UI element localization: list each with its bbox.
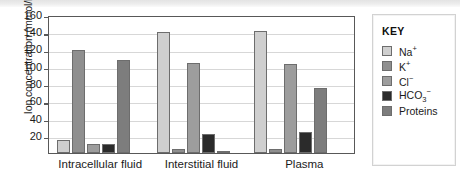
legend-row: Na+ [382, 43, 454, 58]
legend-row: HCO3− [382, 88, 454, 103]
x-label-plasma: Plasma [285, 158, 323, 170]
x-axis-labels: Intracellular fluid Interstitial fluid P… [48, 158, 355, 178]
legend-swatch-icon [382, 91, 392, 101]
legend-label: HCO3− [399, 87, 431, 104]
bar-groups [49, 17, 354, 153]
bar [187, 63, 200, 153]
legend-row: Proteins [382, 103, 454, 118]
y-tick-160: 160 [8, 10, 42, 21]
bar-chart: Ion concentration (mmol/L) 160 140 120 1… [0, 0, 368, 184]
legend-label: Na+ [399, 44, 417, 58]
legend-label: Cl− [399, 74, 413, 88]
figure-root: Ion concentration (mmol/L) 160 140 120 1… [0, 0, 460, 184]
bar [87, 144, 100, 153]
plot-area [48, 16, 355, 154]
bar [117, 60, 130, 153]
legend-row: Cl− [382, 73, 454, 88]
bar [269, 149, 282, 153]
bar [217, 151, 230, 153]
bar [157, 32, 170, 153]
bar [72, 50, 85, 154]
legend-swatch-icon [382, 76, 392, 86]
y-tick-80: 80 [8, 79, 42, 90]
bar [299, 132, 312, 153]
bar [102, 144, 115, 153]
bar [314, 88, 327, 153]
legend-title: KEY [382, 25, 405, 37]
y-tick-100: 100 [8, 62, 42, 73]
bar-group [254, 17, 327, 153]
legend-row: K+ [382, 58, 454, 73]
legend-swatch-icon [382, 61, 392, 71]
bar [284, 64, 297, 153]
legend-label: Proteins [399, 105, 438, 117]
bar-group [157, 17, 230, 153]
y-tick-60: 60 [8, 96, 42, 107]
x-label-intracellular: Intracellular fluid [58, 158, 142, 170]
legend-label: K+ [399, 59, 410, 73]
bar [172, 149, 185, 153]
bar [57, 140, 70, 153]
bar-group [57, 17, 130, 153]
legend-swatch-icon [382, 106, 392, 116]
bar [254, 31, 267, 153]
legend-swatch-icon [382, 46, 392, 56]
legend-box: KEY Na+K+Cl−HCO3−Proteins [372, 14, 456, 166]
y-tick-120: 120 [8, 44, 42, 55]
y-tick-20: 20 [8, 131, 42, 142]
y-axis-tick-labels: 160 140 120 100 80 60 40 20 [6, 0, 42, 184]
y-tick-140: 140 [8, 27, 42, 38]
legend-items: Na+K+Cl−HCO3−Proteins [382, 43, 454, 118]
x-label-interstitial: Interstitial fluid [165, 158, 239, 170]
y-tick-40: 40 [8, 114, 42, 125]
bar [202, 134, 215, 153]
